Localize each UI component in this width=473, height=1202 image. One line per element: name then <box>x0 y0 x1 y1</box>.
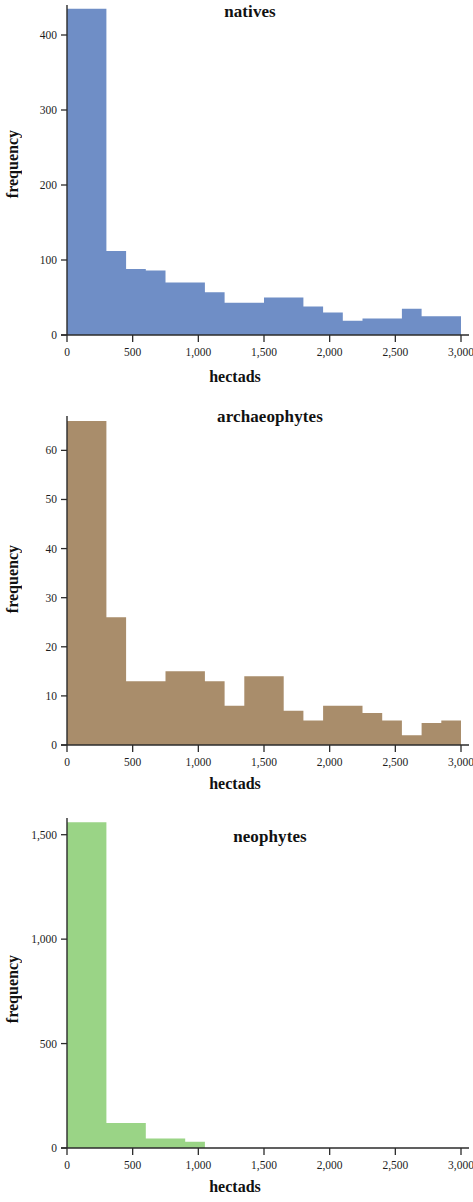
x-tick-label: 1,500 <box>251 346 277 359</box>
y-tick-label: 20 <box>46 641 58 653</box>
x-tick-label: 1,500 <box>251 1159 277 1172</box>
x-tick-label: 500 <box>124 1159 142 1171</box>
y-tick-label: 500 <box>40 1038 58 1050</box>
x-tick-label: 1,000 <box>185 756 211 769</box>
x-tick-label: 2,500 <box>382 346 408 359</box>
y-tick-label: 300 <box>40 104 58 116</box>
x-tick-label: 2,000 <box>317 346 343 359</box>
histogram-bars <box>67 822 461 1148</box>
x-tick-label: 3,000 <box>448 1159 473 1172</box>
y-tick-label: 1,500 <box>31 829 57 842</box>
x-tick-label: 2,500 <box>382 1159 408 1172</box>
y-tick-label: 400 <box>40 29 58 41</box>
plot-area-archaeophytes: 010203040506005001,0001,5002,0002,5003,0… <box>0 400 473 800</box>
y-tick-label: 1,000 <box>31 933 57 946</box>
histogram-bars <box>67 421 461 745</box>
histogram-bars <box>67 9 461 335</box>
x-tick-label: 0 <box>64 346 70 358</box>
y-tick-label: 0 <box>51 329 57 341</box>
y-tick-label: 0 <box>51 1142 57 1154</box>
x-tick-label: 3,000 <box>448 346 473 359</box>
y-tick-label: 50 <box>46 493 58 505</box>
figure-three-histograms: natives frequency hectads 01002003004000… <box>0 0 473 1202</box>
chart-panel-archaeophytes: archaeophytes frequency hectads 01020304… <box>0 400 473 800</box>
y-tick-label: 40 <box>46 543 58 555</box>
x-tick-label: 1,000 <box>185 1159 211 1172</box>
x-tick-label: 0 <box>64 1159 70 1171</box>
x-tick-label: 0 <box>64 756 70 768</box>
y-tick-label: 10 <box>46 690 58 702</box>
x-tick-label: 3,000 <box>448 756 473 769</box>
chart-panel-neophytes: neophytes frequency hectads 05001,0001,5… <box>0 800 473 1202</box>
y-tick-label: 200 <box>40 179 58 191</box>
x-tick-label: 2,500 <box>382 756 408 769</box>
y-tick-label: 30 <box>46 592 58 604</box>
y-tick-label: 60 <box>46 444 58 456</box>
plot-area-neophytes: 05001,0001,50005001,0001,5002,0002,5003,… <box>0 800 473 1202</box>
x-tick-label: 1,500 <box>251 756 277 769</box>
plot-area-natives: 010020030040005001,0001,5002,0002,5003,0… <box>0 0 473 400</box>
x-tick-label: 2,000 <box>317 756 343 769</box>
x-tick-label: 500 <box>124 756 142 768</box>
y-tick-label: 0 <box>51 739 57 751</box>
x-tick-label: 2,000 <box>317 1159 343 1172</box>
y-tick-label: 100 <box>40 254 58 266</box>
x-tick-label: 500 <box>124 346 142 358</box>
chart-panel-natives: natives frequency hectads 01002003004000… <box>0 0 473 400</box>
x-tick-label: 1,000 <box>185 346 211 359</box>
